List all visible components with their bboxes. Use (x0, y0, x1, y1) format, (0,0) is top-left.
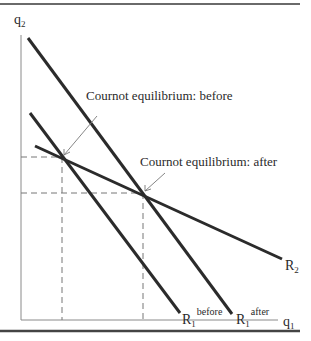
arrow-before (64, 116, 97, 155)
arrow-after (145, 173, 165, 191)
r1-after-line (28, 38, 232, 314)
equilibrium-after-label: Cournot equilibrium: after (140, 154, 278, 169)
y-axis-label: q2 (14, 12, 26, 29)
cournot-diagram: q2 q1 R2 R1before R1after Cournot equili… (0, 0, 311, 341)
r1-before-label: R1before (182, 306, 223, 329)
x-axis-label: q1 (283, 314, 295, 331)
r1-after-label: R1after (236, 306, 270, 329)
equilibrium-before-label: Cournot equilibrium: before (86, 88, 233, 103)
r2-label: R2 (285, 258, 299, 275)
